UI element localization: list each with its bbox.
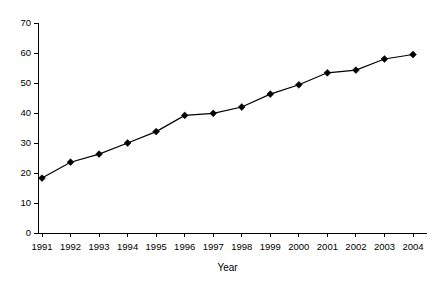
data-point-marker (39, 175, 46, 182)
x-tick-label: 1992 (60, 241, 81, 252)
y-tick-label: 20 (20, 167, 31, 178)
x-tick-label: 1991 (31, 241, 52, 252)
data-point-marker (410, 51, 417, 58)
y-tick-label: 70 (20, 17, 31, 28)
x-tick-label: 2004 (402, 241, 423, 252)
data-point-marker (267, 91, 274, 98)
x-tick-label: 1994 (117, 241, 138, 252)
x-axis-title: Year (217, 262, 238, 273)
y-tick-label: 10 (20, 197, 31, 208)
y-tick-label: 40 (20, 107, 31, 118)
x-axis-tick-labels: 1991199219931994199519961997199819992000… (31, 241, 423, 252)
data-point-marker (238, 104, 245, 111)
y-tick-label: 0 (26, 227, 31, 238)
data-point-marker (324, 69, 331, 76)
data-point-marker (210, 110, 217, 117)
y-axis-tick-labels: 010203040506070 (20, 17, 31, 238)
x-tick-label: 2001 (317, 241, 338, 252)
y-tick-label: 50 (20, 77, 31, 88)
data-point-marker (381, 56, 388, 63)
data-point-marker (353, 67, 360, 74)
x-tick-label: 2000 (288, 241, 309, 252)
y-tick-label: 60 (20, 47, 31, 58)
x-tick-label: 1996 (174, 241, 195, 252)
x-tick-label: 1995 (146, 241, 167, 252)
data-point-marker (295, 81, 302, 88)
data-point-marker (153, 128, 160, 135)
x-axis-tick-marks (42, 233, 413, 237)
x-tick-label: 2002 (345, 241, 366, 252)
data-point-marker (96, 151, 103, 158)
y-axis-tick-marks (34, 23, 38, 233)
y-tick-label: 30 (20, 137, 31, 148)
x-tick-label: 1997 (203, 241, 224, 252)
data-point-markers (39, 51, 417, 181)
data-point-marker (67, 159, 74, 166)
x-tick-label: 1999 (260, 241, 281, 252)
x-tick-label: 1993 (89, 241, 110, 252)
data-point-marker (181, 112, 188, 119)
data-point-marker (124, 140, 131, 147)
line-chart: 010203040506070 199119921993199419951996… (0, 0, 434, 284)
chart-canvas: 010203040506070 199119921993199419951996… (0, 0, 434, 284)
x-tick-label: 1998 (231, 241, 252, 252)
x-tick-label: 2003 (374, 241, 395, 252)
data-series-line (42, 55, 413, 179)
